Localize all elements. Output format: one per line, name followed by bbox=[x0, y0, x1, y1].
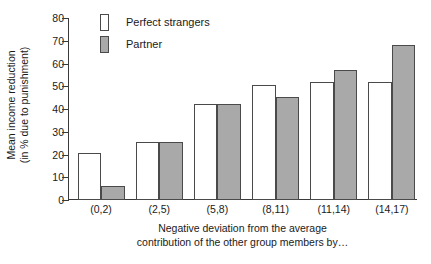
bar-partner bbox=[334, 70, 358, 200]
x-axis-title: Negative deviation from the average cont… bbox=[68, 222, 417, 249]
x-axis-tick-labels: (0,2)(2,5)(5,8)(8,11)(11,14)(14,17) bbox=[68, 203, 417, 219]
legend-swatch-partner bbox=[100, 36, 109, 53]
legend-swatch-perfect-strangers bbox=[100, 14, 109, 31]
y-axis-title-line1: Mean income reduction bbox=[5, 47, 18, 164]
bar-partner bbox=[217, 104, 241, 200]
legend-item-perfect-strangers: Perfect strangers bbox=[100, 12, 270, 34]
bar-perfect-strangers bbox=[310, 82, 334, 199]
legend-label-partner: Partner bbox=[126, 37, 162, 51]
bar-partner bbox=[101, 186, 125, 200]
x-axis-tick-label: (11,14) bbox=[318, 203, 351, 216]
chart-legend: Perfect strangers Partner bbox=[100, 12, 270, 56]
bar-partner bbox=[276, 97, 300, 199]
y-axis-title-line2: (in % due to punishment) bbox=[18, 47, 31, 164]
x-axis-tick-label: (8,11) bbox=[262, 203, 289, 216]
y-axis-tick-mark bbox=[62, 200, 69, 201]
bar-perfect-strangers bbox=[136, 142, 160, 200]
bar-perfect-strangers bbox=[194, 104, 218, 200]
x-axis-tick-label: (2,5) bbox=[148, 203, 170, 216]
x-axis-tick-label: (14,17) bbox=[375, 203, 408, 216]
x-axis-tick-label: (5,8) bbox=[207, 203, 229, 216]
legend-label-perfect-strangers: Perfect strangers bbox=[126, 15, 210, 29]
y-axis-title: Mean income reduction (in % due to punis… bbox=[0, 0, 36, 210]
x-axis-title-line2: contribution of the other group members … bbox=[68, 236, 417, 250]
bar-chart-figure: Mean income reduction (in % due to punis… bbox=[0, 0, 431, 264]
bar-perfect-strangers bbox=[368, 82, 392, 199]
y-axis-tick-labels: 01020304050607080 bbox=[38, 0, 64, 215]
bar-partner bbox=[159, 142, 183, 200]
bar-perfect-strangers bbox=[78, 153, 102, 200]
bar-partner bbox=[392, 45, 416, 200]
bar-perfect-strangers bbox=[252, 85, 276, 200]
x-axis-title-line1: Negative deviation from the average bbox=[68, 222, 417, 236]
x-axis-tick-label: (0,2) bbox=[90, 203, 112, 216]
legend-item-partner: Partner bbox=[100, 34, 270, 56]
